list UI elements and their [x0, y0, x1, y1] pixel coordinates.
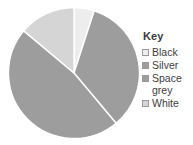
legend-swatch-black-icon: [142, 49, 149, 56]
legend-title: Key: [143, 30, 193, 43]
legend-swatch-white-icon: [142, 100, 149, 107]
legend-swatch-silver-icon: [142, 62, 149, 69]
legend-swatch-space-grey-icon: [142, 75, 149, 82]
legend-item-black[interactable]: Black: [142, 46, 193, 58]
legend: Key Black Silver Space grey White: [142, 30, 193, 110]
pie-chart-figure: Key Black Silver Space grey White: [0, 0, 193, 145]
legend-label-white: White: [152, 97, 179, 109]
pie-slices: [8, 8, 139, 139]
legend-item-space-grey[interactable]: Space grey: [142, 72, 193, 96]
legend-label-black: Black: [152, 46, 178, 58]
legend-item-silver[interactable]: Silver: [142, 59, 193, 71]
legend-label-silver: Silver: [152, 59, 178, 71]
pie-chart-svg: [8, 6, 140, 140]
pie-chart-plot-area: [8, 6, 140, 140]
legend-item-white[interactable]: White: [142, 97, 193, 109]
legend-label-space-grey: Space grey: [152, 72, 193, 96]
